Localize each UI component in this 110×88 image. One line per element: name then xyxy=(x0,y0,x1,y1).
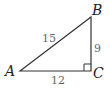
triangle-diagram: A B C 15 9 12 xyxy=(0,0,110,88)
side-label-ab: 15 xyxy=(42,32,56,45)
vertex-label-c: C xyxy=(93,65,104,81)
right-angle-marker xyxy=(84,64,91,71)
side-label-ac: 12 xyxy=(51,74,65,87)
side-label-bc: 9 xyxy=(94,42,101,55)
vertex-label-b: B xyxy=(91,2,102,18)
vertex-label-a: A xyxy=(3,63,15,79)
